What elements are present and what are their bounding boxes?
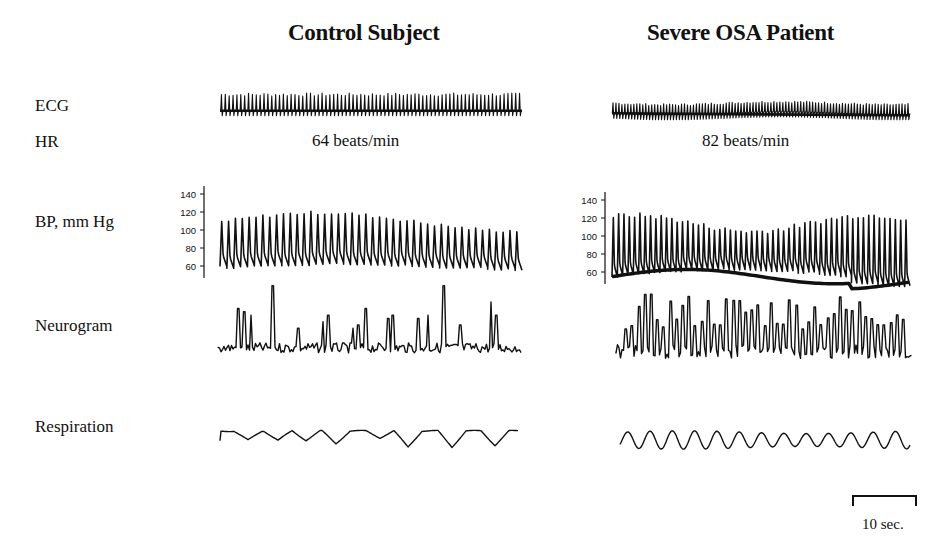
row-label-neurogram: Neurogram [35, 316, 112, 336]
hr-value-control: 64 beats/min [312, 131, 399, 151]
bp-trace-osa [612, 204, 910, 286]
bp-tick-120-osa: 120 [569, 213, 597, 224]
ecg-trace-control [220, 93, 522, 119]
bp-tick-100-osa: 100 [569, 231, 597, 242]
time-scale-label: 10 sec. [862, 516, 904, 533]
bp-tick-80-osa: 80 [569, 249, 597, 260]
respiration-trace-control [220, 424, 518, 452]
row-label-respiration: Respiration [35, 417, 113, 437]
bp-axis-control [196, 186, 206, 278]
bp-tick-60-osa: 60 [569, 267, 597, 278]
bp-tick-100-control: 100 [168, 225, 196, 236]
bp-axis-osa [597, 192, 607, 284]
bp-trace-control [220, 200, 522, 272]
column-title-osa: Severe OSA Patient [647, 20, 834, 46]
bp-tick-80-control: 80 [168, 243, 196, 254]
bp-tick-60-control: 60 [168, 261, 196, 272]
bp-tick-140-osa: 140 [569, 195, 597, 206]
neurogram-trace-control [218, 284, 522, 368]
ecg-trace-osa [612, 97, 910, 121]
time-scale-bar [852, 494, 918, 508]
bp-tick-140-control: 140 [168, 189, 196, 200]
column-title-control: Control Subject [288, 20, 440, 46]
bp-tick-120-control: 120 [168, 207, 196, 218]
respiration-trace-osa [620, 426, 910, 454]
neurogram-trace-osa [616, 300, 912, 376]
hr-value-osa: 82 beats/min [702, 131, 789, 151]
row-label-hr: HR [35, 132, 59, 152]
row-label-ecg: ECG [35, 96, 69, 116]
row-label-bp: BP, mm Hg [35, 212, 114, 232]
